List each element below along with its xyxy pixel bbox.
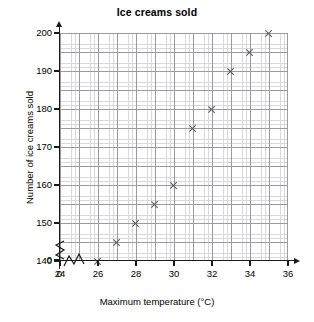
y-tick-mark xyxy=(54,108,60,109)
x-tick-label: 28 xyxy=(116,268,156,279)
x-axis-title: Maximum temperature (°C) xyxy=(0,296,314,307)
x-tick-mark xyxy=(97,260,98,266)
x-axis-line xyxy=(59,260,297,261)
data-point xyxy=(208,105,217,114)
plot-area xyxy=(60,33,288,261)
y-axis-title: Number of ice creams sold xyxy=(24,53,35,243)
x-tick-mark xyxy=(59,260,60,266)
y-tick-label: 200 xyxy=(4,27,52,38)
x-tick-label: 32 xyxy=(192,268,232,279)
y-tick-mark xyxy=(54,70,60,71)
y-tick-mark xyxy=(54,222,60,223)
plot-border-right xyxy=(287,33,288,261)
x-axis-break-icon xyxy=(63,252,85,268)
y-tick-label: 140 xyxy=(4,255,52,266)
x-tick-label: 24 xyxy=(40,268,80,279)
x-tick-mark xyxy=(211,260,212,266)
y-axis-arrow-icon xyxy=(56,21,62,27)
data-point xyxy=(113,238,122,247)
chart-figure: Ice creams sold 0140150160170180190200 N… xyxy=(0,0,314,322)
y-tick-mark xyxy=(54,184,60,185)
x-tick-mark xyxy=(287,260,288,266)
data-point xyxy=(265,29,274,38)
data-point xyxy=(151,200,160,209)
x-tick-label: 26 xyxy=(78,268,118,279)
data-point xyxy=(189,124,198,133)
x-tick-label: 34 xyxy=(230,268,270,279)
x-tick-mark xyxy=(135,260,136,266)
y-tick-mark xyxy=(54,32,60,33)
x-tick-mark xyxy=(249,260,250,266)
data-point xyxy=(246,48,255,57)
data-point xyxy=(227,67,236,76)
y-tick-mark xyxy=(54,146,60,147)
x-tick-label: 36 xyxy=(268,268,308,279)
major-gridlines xyxy=(60,33,288,261)
x-axis-arrow-icon xyxy=(294,258,300,264)
x-tick-mark xyxy=(173,260,174,266)
data-point xyxy=(132,219,141,228)
data-point xyxy=(170,181,179,190)
x-tick-label: 30 xyxy=(154,268,194,279)
